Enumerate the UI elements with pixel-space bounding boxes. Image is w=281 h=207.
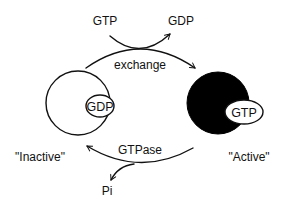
nucleotide-swap-arrow xyxy=(110,34,170,49)
inactive-protein: GDP xyxy=(46,71,114,135)
gtpase-label: GTPase xyxy=(118,143,162,157)
gdp-output-label: GDP xyxy=(168,14,194,28)
inactive-state-label: "Inactive" xyxy=(15,150,65,164)
active-state-label: "Active" xyxy=(228,150,269,164)
gdp-bound-label: GDP xyxy=(86,100,113,114)
gtp-input-label: GTP xyxy=(93,14,118,28)
pi-label: Pi xyxy=(102,184,113,198)
pi-release-arrow xyxy=(111,164,134,180)
active-protein: GTP xyxy=(187,72,263,134)
exchange-label: exchange xyxy=(114,58,166,72)
gtpase-cycle-diagram: GTP GDP exchange GDP "Inactive" GTP "Act… xyxy=(0,0,281,207)
gtp-bound-label: GTP xyxy=(231,106,257,120)
